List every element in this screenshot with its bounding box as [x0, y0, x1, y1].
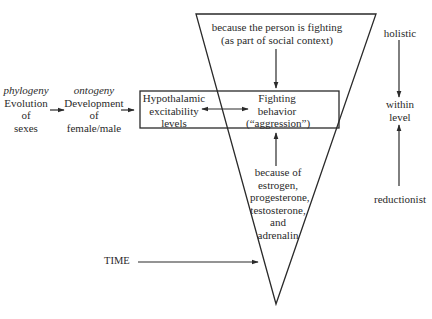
fighting-line-2: behavior: [246, 105, 308, 118]
level-line: level: [380, 111, 420, 124]
phylogeny-tag: phylogeny: [1, 84, 51, 97]
hypothalamic-line-2: excitability: [141, 105, 207, 118]
hormones-line-2: estrogen,: [250, 179, 306, 192]
ontogeny-line-2: of: [64, 109, 124, 122]
hormones-line-6: adrenalin: [250, 229, 306, 242]
ontogeny-line-3: female/male: [64, 122, 124, 135]
ontogeny-line-1: Development: [64, 97, 124, 110]
hypothalamic-line-3: levels: [141, 117, 207, 130]
hormones-line-1: because of: [250, 166, 306, 179]
within-line: within: [380, 98, 420, 111]
hypothalamic-line-1: Hypothalamic: [141, 92, 207, 105]
social-context-label: because the person is fighting (as part …: [206, 21, 348, 46]
phylogeny-line-2: of: [1, 109, 51, 122]
ontogeny-tag: ontogeny: [64, 84, 124, 97]
holistic-label: holistic: [380, 27, 420, 40]
phylogeny-label: phylogeny Evolution of sexes: [1, 84, 51, 134]
diagram-canvas: [0, 0, 432, 319]
reductionist-label: reductionist: [372, 193, 428, 206]
social-line-2: (as part of social context): [206, 34, 348, 47]
fighting-line-3: (“aggression”): [246, 117, 308, 130]
phylogeny-line-1: Evolution: [1, 97, 51, 110]
hormones-line-4: testosterone,: [250, 204, 306, 217]
inverted-triangle: [196, 14, 376, 304]
social-line-1: because the person is fighting: [206, 21, 348, 34]
hormones-line-5: and: [250, 216, 306, 229]
hypothalamic-label: Hypothalamic excitability levels: [141, 92, 207, 130]
time-label: TIME: [104, 255, 130, 268]
fighting-line-1: Fighting: [246, 92, 308, 105]
ontogeny-label: ontogeny Development of female/male: [64, 84, 124, 134]
within-level-label: within level: [380, 98, 420, 123]
fighting-behavior-label: Fighting behavior (“aggression”): [246, 92, 308, 130]
hormones-line-3: progesterone,: [250, 191, 306, 204]
phylogeny-line-3: sexes: [1, 122, 51, 135]
hormones-label: because of estrogen, progesterone, testo…: [250, 166, 306, 241]
